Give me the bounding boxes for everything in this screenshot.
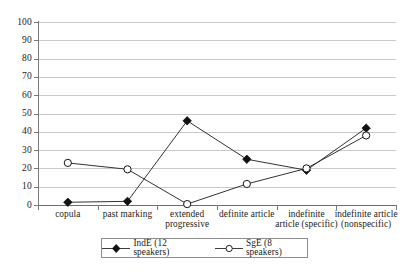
data-point-filled-diamond-0 [64,198,72,206]
open-circle-icon [215,243,243,254]
data-point-open-circle-1 [124,166,131,173]
chart-legend: IndE (12 speakers) SgE (8 speakers) [101,238,308,258]
series-line [68,135,366,204]
legend-entry-sge[interactable]: SgE (8 speakers) [215,239,307,258]
filled-diamond-icon [102,243,130,254]
series-sge [64,132,370,208]
data-point-filled-diamond-2 [183,117,191,125]
data-point-open-circle-5 [363,132,370,139]
data-point-open-circle-2 [184,200,191,207]
data-point-filled-diamond-5 [362,124,370,132]
data-point-filled-diamond-3 [243,155,251,163]
series-layer [0,0,407,272]
series-inde [64,117,371,207]
series-line [68,121,366,202]
legend-label-inde: IndE (12 speakers) [133,239,201,258]
data-point-open-circle-4 [303,165,310,172]
data-point-open-circle-3 [243,180,250,187]
legend-label-sge: SgE (8 speakers) [246,239,307,258]
data-point-open-circle-0 [64,159,71,166]
line-chart: 1009080706050403020100 copulapast markin… [0,0,407,272]
data-point-filled-diamond-1 [123,197,131,205]
legend-entry-inde[interactable]: IndE (12 speakers) [102,239,202,258]
